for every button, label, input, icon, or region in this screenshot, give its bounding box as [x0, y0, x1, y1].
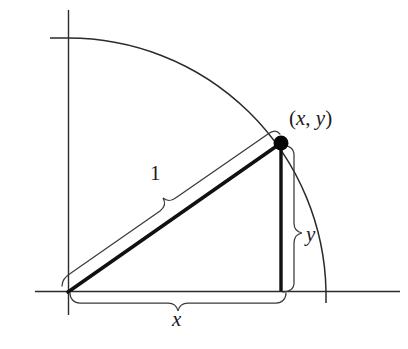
point-label-x: x	[296, 106, 305, 130]
unit-circle-arc	[50, 38, 326, 303]
point-coordinate-label: (x, y)	[289, 108, 332, 129]
point-label-comma: ,	[305, 106, 310, 130]
hypotenuse-length-label: 1	[150, 163, 161, 184]
hypotenuse-brace	[62, 131, 280, 286]
point-label-close-paren: )	[325, 106, 332, 130]
vertical-leg-brace	[283, 145, 302, 292]
vertical-leg-label: y	[306, 224, 315, 245]
diagram-canvas	[0, 0, 408, 349]
hypotenuse-segment	[68, 143, 281, 292]
unit-circle-diagram: (x, y) 1 x y	[0, 0, 408, 349]
point-label-y: y	[316, 106, 325, 130]
point-label-open-paren: (	[289, 106, 296, 130]
terminal-point-dot	[274, 136, 289, 151]
horizontal-leg-label: x	[172, 309, 181, 330]
